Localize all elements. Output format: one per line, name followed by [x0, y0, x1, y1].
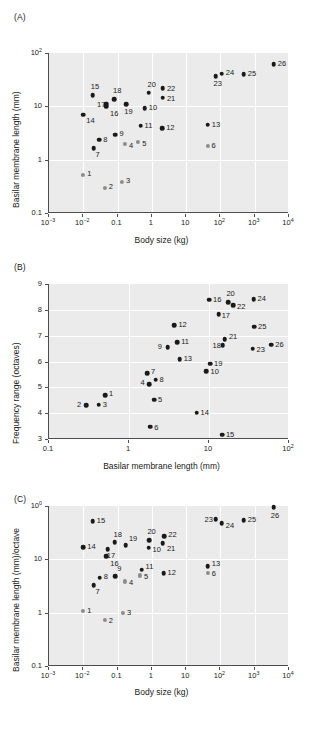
data-point-20[interactable]: [146, 90, 151, 95]
data-point-9[interactable]: [165, 345, 170, 350]
data-point-19[interactable]: [208, 361, 213, 366]
x-axis-tick-label: 1: [126, 445, 130, 453]
data-point-19[interactable]: [124, 102, 129, 107]
data-point-label-11: 11: [181, 338, 189, 346]
data-point-18[interactable]: [112, 97, 117, 102]
gridline-vertical: [289, 284, 290, 438]
data-point-5[interactable]: [152, 397, 157, 402]
data-point-26[interactable]: [269, 342, 274, 347]
data-point-10[interactable]: [142, 106, 147, 111]
data-point-label-21: 21: [167, 545, 175, 553]
data-point-9[interactable]: [113, 132, 118, 137]
data-point-23[interactable]: [213, 517, 218, 522]
data-point-label-9: 9: [119, 130, 123, 138]
data-point-label-12: 12: [178, 321, 186, 329]
data-point-24[interactable]: [220, 521, 225, 526]
data-point-24[interactable]: [251, 297, 256, 302]
y-axis-tick-label: 3: [8, 435, 42, 443]
data-point-5[interactable]: [138, 573, 142, 577]
data-point-19[interactable]: [124, 543, 129, 548]
data-point-1[interactable]: [81, 173, 85, 177]
data-point-14[interactable]: [81, 112, 86, 117]
data-point-label-8: 8: [160, 376, 164, 384]
data-point-24[interactable]: [220, 71, 225, 76]
data-point-22[interactable]: [231, 303, 236, 308]
data-point-5[interactable]: [136, 140, 140, 144]
data-point-12[interactable]: [160, 126, 165, 131]
y-axis-tick: [45, 53, 48, 54]
data-point-15[interactable]: [91, 519, 96, 524]
x-axis-tick-label: 10−2: [75, 672, 89, 680]
data-point-label-6: 6: [154, 424, 158, 432]
gridline-vertical: [186, 506, 187, 665]
data-point-label-16: 16: [110, 560, 118, 568]
gridline-vertical: [186, 53, 187, 212]
x-axis-tick-label: 1: [149, 672, 153, 680]
data-point-25[interactable]: [241, 72, 246, 77]
data-point-22[interactable]: [162, 534, 167, 539]
data-point-2[interactable]: [103, 185, 107, 189]
data-point-12[interactable]: [172, 323, 177, 328]
data-point-6[interactable]: [205, 144, 209, 148]
data-point-label-6: 6: [212, 142, 216, 150]
data-point-25[interactable]: [241, 518, 246, 523]
data-point-label-25: 25: [248, 516, 256, 524]
data-point-2[interactable]: [103, 618, 107, 622]
data-point-20[interactable]: [147, 538, 152, 543]
data-point-label-13: 13: [212, 560, 220, 568]
data-point-label-20: 20: [226, 290, 234, 298]
data-point-13[interactable]: [206, 123, 211, 128]
data-point-15[interactable]: [220, 432, 225, 437]
data-point-23[interactable]: [213, 74, 218, 79]
x-axis-tick-label: 10−2: [75, 219, 89, 227]
data-point-16[interactable]: [207, 297, 212, 302]
data-point-26[interactable]: [271, 505, 276, 510]
data-point-4[interactable]: [123, 579, 127, 583]
x-axis-tick: [219, 667, 220, 670]
data-point-13[interactable]: [177, 357, 182, 362]
data-point-2[interactable]: [84, 403, 89, 408]
data-point-9[interactable]: [113, 574, 118, 579]
data-point-15[interactable]: [91, 93, 96, 98]
data-point-8[interactable]: [97, 138, 102, 143]
data-point-8[interactable]: [97, 575, 102, 580]
data-point-11[interactable]: [175, 340, 180, 345]
data-point-23[interactable]: [250, 346, 255, 351]
data-point-6[interactable]: [148, 424, 153, 429]
data-point-6[interactable]: [206, 571, 210, 575]
data-point-12[interactable]: [161, 571, 166, 576]
data-point-25[interactable]: [252, 325, 257, 330]
data-point-3[interactable]: [97, 402, 102, 407]
data-point-14[interactable]: [81, 545, 86, 550]
x-axis-tick: [208, 440, 209, 443]
y-axis-tick-label: 0.1: [8, 209, 42, 217]
data-point-7[interactable]: [145, 371, 150, 376]
data-point-13[interactable]: [206, 564, 211, 569]
data-point-18[interactable]: [220, 343, 225, 348]
data-point-18[interactable]: [112, 540, 117, 545]
data-point-21[interactable]: [161, 95, 166, 100]
data-point-26[interactable]: [271, 62, 276, 67]
y-axis-tick: [45, 160, 48, 161]
data-point-1[interactable]: [103, 393, 108, 398]
data-point-8[interactable]: [153, 377, 158, 382]
data-point-label-4: 4: [140, 379, 144, 387]
data-point-11[interactable]: [139, 567, 144, 572]
y-axis-tick: [45, 310, 48, 311]
gridline-vertical: [152, 53, 153, 212]
data-point-17[interactable]: [216, 312, 221, 317]
data-point-11[interactable]: [138, 124, 143, 129]
y-axis-tick-label: 0.1: [8, 662, 42, 670]
data-point-14[interactable]: [194, 410, 199, 415]
data-point-22[interactable]: [161, 86, 166, 91]
gridline-horizontal: [49, 362, 288, 363]
data-point-21[interactable]: [161, 541, 166, 546]
data-point-10[interactable]: [204, 369, 209, 374]
y-axis-tick-label: 10: [8, 103, 42, 111]
data-point-4[interactable]: [147, 382, 152, 387]
data-point-21[interactable]: [223, 337, 228, 342]
data-point-3[interactable]: [121, 611, 125, 615]
data-point-4[interactable]: [123, 142, 127, 146]
data-point-3[interactable]: [120, 180, 124, 184]
data-point-10[interactable]: [146, 545, 151, 550]
